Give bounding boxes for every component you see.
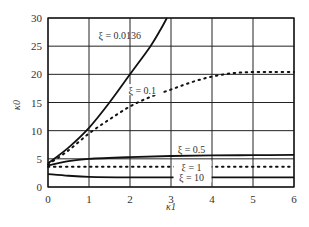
y-tick-label: 0	[37, 181, 43, 193]
curve-label: ξ = 0.0136	[98, 30, 141, 42]
curve-label: ξ = 0.1	[128, 85, 156, 97]
x-axis-label: κ1	[166, 201, 176, 212]
x-tick-label: 6	[291, 193, 297, 205]
y-tick-label: 25	[31, 40, 43, 52]
y-tick-label: 10	[31, 125, 43, 137]
x-tick-label: 4	[209, 193, 215, 205]
curve-label: ξ = 10	[179, 172, 204, 184]
x-tick-label: 0	[45, 193, 51, 205]
y-tick-label: 20	[31, 68, 43, 80]
y-tick-label: 5	[37, 153, 43, 165]
curve-label: ξ = 0.5	[178, 144, 206, 156]
y-tick-label: 30	[31, 12, 43, 24]
y-tick-label: 15	[31, 97, 43, 109]
grid-lines	[48, 18, 294, 187]
y-axis-label: κ0	[11, 100, 22, 110]
x-tick-label: 1	[86, 193, 92, 205]
y-axis-ticks: 051015202530	[31, 12, 43, 193]
curve-labels: ξ = 0.0136ξ = 0.1ξ = 0.5ξ = 1ξ = 10	[98, 30, 211, 185]
x-tick-label: 2	[127, 193, 133, 205]
x-tick-label: 5	[250, 193, 256, 205]
line-chart: 0123456 051015202530 ξ = 0.0136ξ = 0.1ξ …	[0, 0, 309, 227]
